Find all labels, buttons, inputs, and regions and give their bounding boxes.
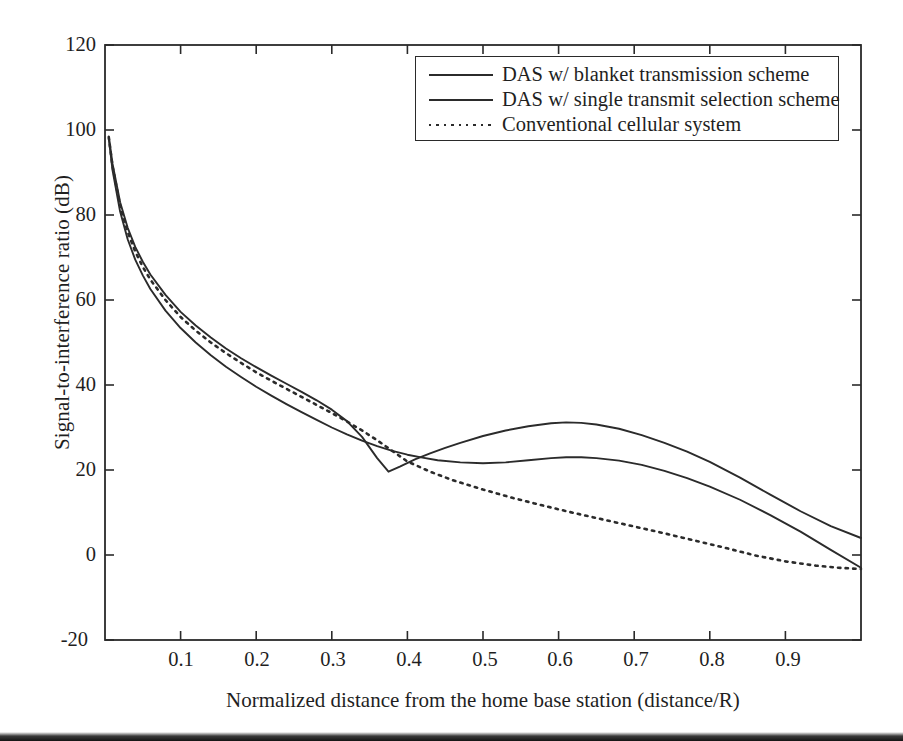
xtick-label: 0.7 [596,648,676,671]
y-axis-label: Signal-to-interference ratio (dB) [50,103,75,523]
legend-item-conventional-cellular: Conventional cellular system [416,112,838,137]
x-axis-label: Normalized distance from the home base s… [105,688,861,713]
legend-solid-line-icon [429,68,493,82]
ytick-label: 120 [22,33,96,56]
ytick-label: -20 [14,628,88,651]
ytick-label: 0 [22,543,96,566]
xtick-label: 0.5 [445,648,525,671]
chart-legend: DAS w/ blanket transmission scheme DAS w… [415,56,839,141]
legend-label: DAS w/ blanket transmission scheme [502,64,809,85]
figure: 120 100 80 60 40 20 0 -20 0.1 0.2 0.3 0.… [0,0,903,741]
xtick-label: 0.8 [672,648,752,671]
legend-label: Conventional cellular system [502,114,741,135]
xtick-label: 0.1 [141,648,221,671]
legend-solid-line-icon [429,93,493,107]
series-group [109,136,861,569]
xtick-label: 0.2 [217,648,297,671]
legend-item-single-transmit-selection: DAS w/ single transmit selection scheme [416,87,838,112]
xtick-label: 0.4 [369,648,449,671]
xtick-label: 0.6 [520,648,600,671]
xtick-label: 0.9 [748,648,828,671]
legend-item-blanket-transmission: DAS w/ blanket transmission scheme [416,62,838,87]
legend-label: DAS w/ single transmit selection scheme [502,89,840,110]
page-edge-band [0,732,903,741]
xtick-label: 0.3 [293,648,373,671]
legend-dotted-line-icon [429,118,493,132]
